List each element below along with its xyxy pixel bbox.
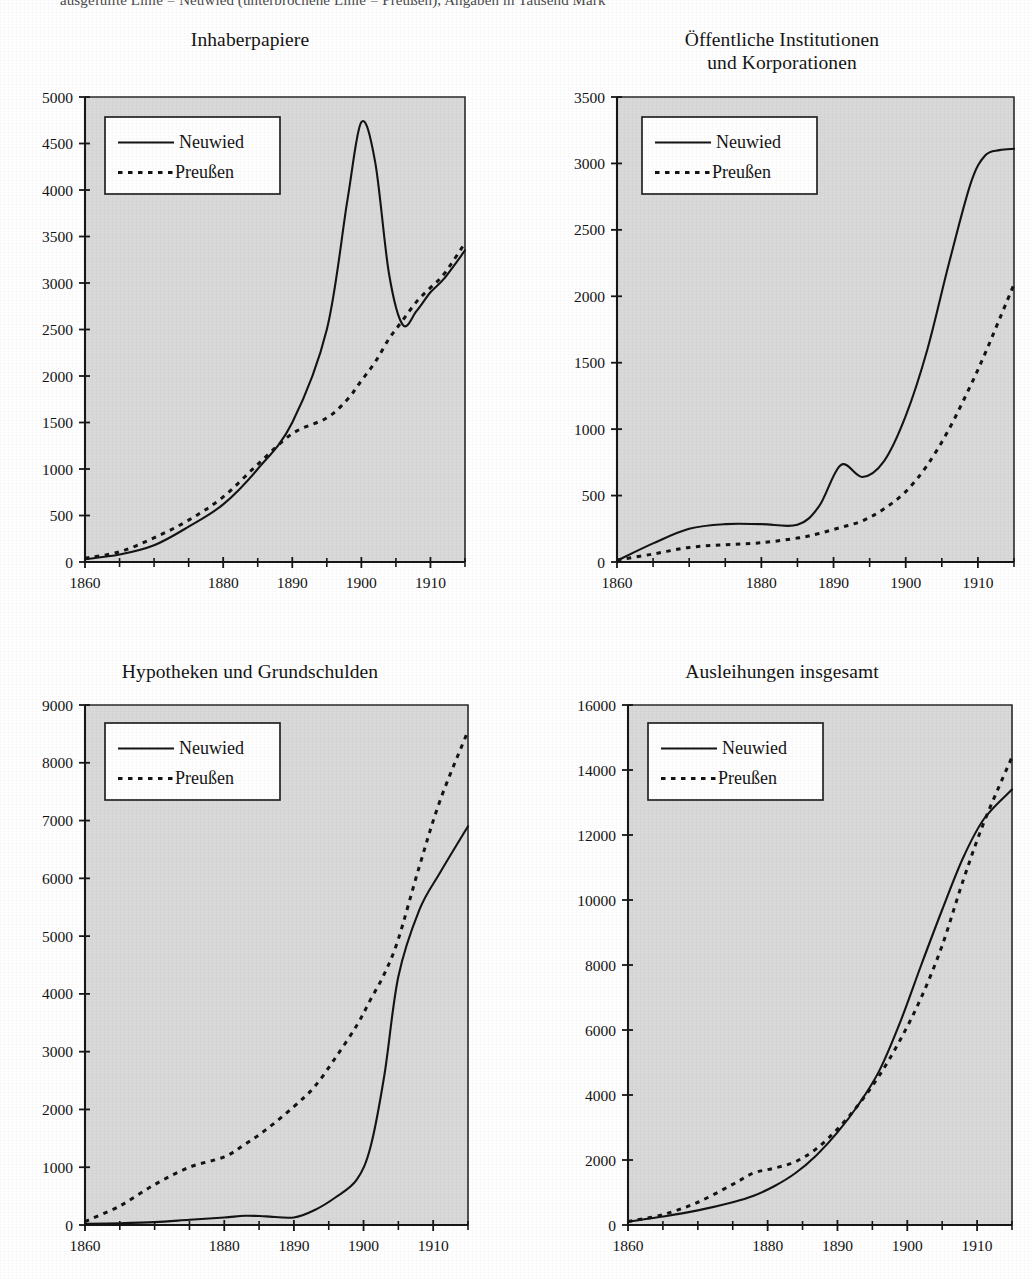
x-axis-tick-label: 1900: [890, 574, 921, 591]
chart-title-0: Inhaberpapiere: [0, 28, 500, 51]
y-axis-tick-label: 4000: [42, 182, 73, 199]
chart-panel-ausleihungen-insgesamt: Ausleihungen insgesamt 02000400060008000…: [532, 660, 1032, 1275]
x-axis-tick-label: 1880: [752, 1237, 783, 1254]
legend-label-neuwied: Neuwied: [716, 132, 781, 152]
legend-label-preussen: Preußen: [712, 162, 771, 182]
chart-canvas-3: 0200040006000800010000120001400016000186…: [532, 660, 1032, 1275]
x-axis-tick-label: 1880: [209, 1237, 240, 1254]
y-axis-tick-label: 10000: [577, 892, 616, 909]
x-axis-tick-label: 1860: [70, 574, 101, 591]
y-axis-tick-label: 0: [65, 554, 73, 571]
y-axis-tick-label: 6000: [42, 870, 73, 887]
x-axis-tick-label: 1890: [818, 574, 849, 591]
y-axis-tick-label: 4500: [42, 135, 73, 152]
y-axis-tick-label: 1000: [574, 421, 605, 438]
legend-label-preussen: Preußen: [718, 768, 777, 788]
y-axis-tick-label: 2000: [574, 288, 605, 305]
y-axis-tick-label: 1500: [42, 414, 73, 431]
x-axis-tick-label: 1860: [602, 574, 633, 591]
x-axis-tick-label: 1910: [962, 1237, 993, 1254]
y-axis-tick-label: 8000: [585, 957, 616, 974]
y-axis-tick-label: 500: [50, 507, 74, 524]
chart-panel-inhaberpapiere: Inhaberpapiere 0500100015002000250030003…: [0, 22, 500, 612]
y-axis-tick-label: 2000: [42, 368, 73, 385]
y-axis-tick-label: 2000: [42, 1101, 73, 1118]
legend-label-preussen: Preußen: [175, 162, 234, 182]
legend-label-neuwied: Neuwied: [722, 738, 787, 758]
cut-off-caption-text: ausgefüllte Linie = Neuwied (unterbroche…: [60, 0, 980, 9]
y-axis-tick-label: 7000: [42, 812, 73, 829]
x-axis-tick-label: 1900: [348, 1237, 379, 1254]
y-axis-tick-label: 0: [65, 1217, 73, 1234]
chart-title-3: Ausleihungen insgesamt: [532, 660, 1032, 683]
y-axis-tick-label: 2000: [585, 1152, 616, 1169]
legend-label-neuwied: Neuwied: [179, 132, 244, 152]
chart-canvas-0: 0500100015002000250030003500400045005000…: [0, 22, 500, 612]
y-axis-tick-label: 3000: [42, 275, 73, 292]
x-axis-tick-label: 1910: [415, 574, 446, 591]
x-axis-tick-label: 1860: [70, 1237, 101, 1254]
chart-title-1: Öffentliche Institutionen und Korporatio…: [532, 28, 1032, 74]
y-axis-tick-label: 3000: [42, 1043, 73, 1060]
y-axis-tick-label: 5000: [42, 928, 73, 945]
chart-canvas-1: 0500100015002000250030003500186018801890…: [532, 22, 1032, 612]
y-axis-tick-label: 2500: [574, 221, 605, 238]
chart-panel-hypotheken-grundschulden: Hypotheken und Grundschulden 01000200030…: [0, 660, 500, 1275]
y-axis-tick-label: 1000: [42, 1159, 73, 1176]
x-axis-tick-label: 1900: [346, 574, 377, 591]
y-axis-tick-label: 9000: [42, 697, 73, 714]
figure-page: ausgefüllte Linie = Neuwied (unterbroche…: [0, 0, 1032, 1279]
y-axis-tick-label: 6000: [585, 1022, 616, 1039]
x-axis-tick-label: 1890: [277, 574, 308, 591]
x-axis-tick-label: 1860: [613, 1237, 644, 1254]
x-axis-tick-label: 1910: [962, 574, 993, 591]
y-axis-tick-label: 3500: [574, 89, 605, 106]
y-axis-tick-label: 3000: [574, 155, 605, 172]
y-axis-tick-label: 4000: [42, 985, 73, 1002]
x-axis-tick-label: 1890: [278, 1237, 309, 1254]
y-axis-tick-label: 8000: [42, 754, 73, 771]
x-axis-tick-label: 1900: [892, 1237, 923, 1254]
legend-label-preussen: Preußen: [175, 768, 234, 788]
x-axis-tick-label: 1890: [822, 1237, 853, 1254]
chart-canvas-2: 0100020003000400050006000700080009000186…: [0, 660, 500, 1275]
y-axis-tick-label: 4000: [585, 1087, 616, 1104]
y-axis-tick-label: 500: [582, 487, 606, 504]
x-axis-tick-label: 1880: [208, 574, 239, 591]
y-axis-tick-label: 1000: [42, 461, 73, 478]
y-axis-tick-label: 2500: [42, 321, 73, 338]
y-axis-tick-label: 1500: [574, 354, 605, 371]
y-axis-tick-label: 5000: [42, 89, 73, 106]
y-axis-tick-label: 12000: [577, 827, 616, 844]
x-axis-tick-label: 1880: [746, 574, 777, 591]
y-axis-tick-label: 3500: [42, 228, 73, 245]
chart-panel-oeffentliche-institutionen: Öffentliche Institutionen und Korporatio…: [532, 22, 1032, 612]
y-axis-tick-label: 0: [608, 1217, 616, 1234]
x-axis-tick-label: 1910: [418, 1237, 449, 1254]
chart-title-2: Hypotheken und Grundschulden: [0, 660, 500, 683]
y-axis-tick-label: 0: [597, 554, 605, 571]
legend-label-neuwied: Neuwied: [179, 738, 244, 758]
y-axis-tick-label: 16000: [577, 697, 616, 714]
y-axis-tick-label: 14000: [577, 762, 616, 779]
